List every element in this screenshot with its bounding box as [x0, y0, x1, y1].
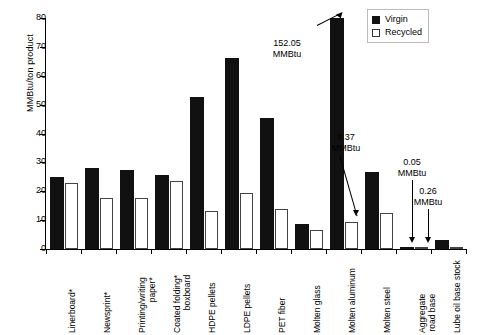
x-axis-label-line: Printing/writing	[138, 277, 148, 333]
x-axis-label-line: Molten aluminum	[348, 268, 358, 333]
x-axis-label: Coated folding*boxboard	[173, 275, 192, 333]
x-axis-label: Newsprint*	[103, 292, 113, 333]
x-axis-label-line: Newsprint*	[103, 292, 113, 333]
bar-virgin[interactable]	[365, 172, 379, 249]
bar-chart: MMBtu/ton product 01020304050607080 Line…	[0, 0, 479, 335]
annotation-005-arrowhead	[409, 237, 415, 243]
y-tick-label: 50	[24, 100, 46, 109]
bar-recycled[interactable]	[415, 247, 429, 249]
bar-virgin[interactable]	[435, 240, 449, 249]
x-axis-label: Molten glass	[313, 285, 323, 333]
y-tick-label: 80	[24, 13, 46, 22]
x-axis-label-line: Coated folding*	[173, 275, 183, 333]
x-tick	[396, 249, 397, 254]
x-tick	[186, 249, 187, 254]
x-tick	[221, 249, 222, 254]
x-axis-label: Linerboard*	[68, 289, 78, 333]
annotation-005-unit: MMBtu	[388, 168, 436, 179]
annotation-152-arrowhead	[336, 10, 344, 18]
x-tick	[326, 249, 327, 254]
x-axis-label-line: Molten steel	[383, 287, 393, 333]
legend-swatch-virgin	[372, 16, 380, 24]
bar-virgin[interactable]	[225, 58, 239, 249]
x-axis-label: PET fiber	[278, 298, 288, 333]
bar-virgin[interactable]	[120, 170, 134, 249]
x-axis-category-labels: Linerboard*Newsprint*Printing/writingpap…	[46, 256, 466, 335]
y-tick-label: 70	[24, 42, 46, 51]
bar-group	[221, 18, 256, 249]
legend-item-recycled[interactable]: Recycled	[372, 26, 422, 39]
annotation-937: 9.37 MMBtu	[322, 132, 370, 153]
bar-recycled[interactable]	[275, 209, 289, 249]
annotation-026-value: 0.26	[404, 186, 452, 197]
x-axis-label-line: HDPE pellets	[208, 282, 218, 333]
x-tick	[361, 249, 362, 254]
plot-area	[46, 18, 466, 249]
y-axis-ticks: 01020304050607080	[0, 0, 46, 260]
bar-group	[186, 18, 221, 249]
bar-recycled[interactable]	[170, 181, 184, 249]
bar-virgin[interactable]	[85, 168, 99, 249]
annotation-152-value: 152.05	[258, 38, 316, 49]
x-axis-label-line: Molten glass	[313, 285, 323, 333]
bar-virgin[interactable]	[50, 177, 64, 249]
annotation-152-unit: MMBtu	[258, 49, 316, 60]
bar-recycled[interactable]	[380, 213, 394, 249]
bar-virgin[interactable]	[260, 118, 274, 249]
x-axis-label-line: LDPE pellets	[243, 284, 253, 333]
bar-virgin[interactable]	[155, 175, 169, 249]
annotation-937-arrowhead	[353, 210, 359, 216]
y-tick-label: 30	[24, 157, 46, 166]
bar-virgin[interactable]	[400, 247, 414, 249]
annotation-937-unit: MMBtu	[322, 143, 370, 154]
bar-recycled[interactable]	[65, 183, 79, 249]
legend-item-virgin[interactable]: Virgin	[372, 13, 422, 26]
y-tick-label: 60	[24, 71, 46, 80]
bar-group	[396, 18, 431, 249]
bar-virgin[interactable]	[190, 97, 204, 249]
bar-group	[151, 18, 186, 249]
annotation-937-value: 9.37	[322, 132, 370, 143]
legend: Virgin Recycled	[367, 9, 429, 43]
x-axis-label-line: Lube oil base stock	[453, 260, 463, 333]
annotation-026-leader	[428, 209, 429, 238]
y-tick-label: 20	[24, 186, 46, 195]
bar-recycled[interactable]	[345, 222, 359, 249]
legend-swatch-recycled	[372, 29, 380, 37]
annotation-026-unit: MMBtu	[404, 197, 452, 208]
annotation-005: 0.05 MMBtu	[388, 157, 436, 178]
x-axis-label: Aggregateroad base	[418, 294, 437, 333]
annotation-005-value: 0.05	[388, 157, 436, 168]
bar-recycled[interactable]	[205, 211, 219, 249]
x-tick	[291, 249, 292, 254]
x-axis-label-line: paper*	[147, 277, 157, 333]
legend-label-recycled: Recycled	[385, 28, 422, 37]
x-tick	[431, 249, 432, 254]
x-tick	[466, 249, 467, 254]
x-tick	[46, 249, 47, 254]
x-axis-label: LDPE pellets	[243, 284, 253, 333]
bar-group	[81, 18, 116, 249]
y-tick-label: 0	[24, 244, 46, 253]
bar-recycled[interactable]	[135, 198, 149, 249]
bar-recycled[interactable]	[240, 193, 254, 249]
x-tick	[81, 249, 82, 254]
bar-virgin[interactable]	[295, 224, 309, 249]
bar-recycled[interactable]	[100, 198, 114, 249]
x-axis-label: HDPE pellets	[208, 282, 218, 333]
bar-group	[46, 18, 81, 249]
annotation-026: 0.26 MMBtu	[404, 186, 452, 207]
x-axis-label-line: boxboard	[182, 275, 192, 333]
y-tick-label: 40	[24, 129, 46, 138]
bar-recycled[interactable]	[310, 230, 324, 249]
x-tick	[151, 249, 152, 254]
x-axis-label: Molten aluminum	[348, 268, 358, 333]
x-axis-label-line: Aggregate	[418, 294, 428, 333]
x-tick	[116, 249, 117, 254]
bar-group	[431, 18, 466, 249]
x-axis-label-line: road base	[427, 294, 437, 333]
annotation-026-arrowhead	[425, 237, 431, 243]
x-axis-label-line: Linerboard*	[68, 289, 78, 333]
bar-recycled[interactable]	[450, 247, 464, 249]
annotation-152: 152.05 MMBtu	[258, 38, 316, 59]
